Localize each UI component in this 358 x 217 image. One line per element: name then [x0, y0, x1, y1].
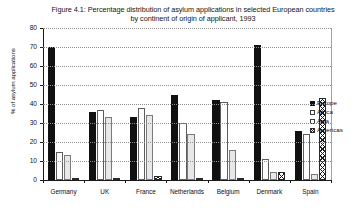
bar-germany-americas [72, 178, 79, 180]
gridline [43, 28, 331, 29]
bar-belgium-americas [237, 178, 244, 180]
legend-label: Africa [317, 109, 333, 115]
y-tick-mark [40, 28, 43, 29]
bar-uk-americas [113, 178, 120, 180]
gridline [43, 161, 331, 162]
y-tick-label: 20 [20, 139, 37, 146]
figure-container: Figure 4.1: Percentage distribution of a… [0, 0, 358, 217]
y-tick-mark [40, 85, 43, 86]
x-tick-label-belgium: Belgium [208, 188, 249, 195]
legend-swatch-americas-icon [310, 128, 315, 133]
legend-item-americas[interactable]: Americas [310, 126, 356, 135]
bar-netherlands-africa [179, 123, 186, 180]
bar-uk-asia [105, 117, 112, 180]
gridline [43, 142, 331, 143]
x-tick-mark [43, 180, 44, 183]
x-tick-label-france: France [125, 188, 166, 195]
x-tick-mark [331, 180, 332, 183]
legend-swatch-africa-icon [310, 110, 315, 115]
y-axis-label: % of asylum applications [10, 33, 16, 129]
bar-netherlands-europe [171, 95, 178, 181]
gridline [43, 104, 331, 105]
x-tick-label-uk: UK [84, 188, 125, 195]
bar-belgium-europe [212, 100, 219, 180]
y-tick-label: 60 [20, 63, 37, 70]
y-tick-mark [40, 123, 43, 124]
bar-netherlands-americas [196, 178, 203, 180]
y-tick-mark [40, 142, 43, 143]
x-axis-line [43, 180, 332, 181]
y-tick-label: 50 [20, 82, 37, 89]
bar-france-europe [130, 117, 137, 180]
chart-title-line-2: by continent of origin of applicant, 199… [34, 14, 352, 23]
y-tick-label: 70 [20, 44, 37, 51]
x-tick-mark [166, 180, 167, 183]
bar-france-africa [138, 108, 145, 180]
x-tick-mark [208, 180, 209, 183]
x-tick-mark [84, 180, 85, 183]
x-tick-mark [125, 180, 126, 183]
bar-uk-europe [89, 112, 96, 180]
y-tick-mark [40, 66, 43, 67]
bar-germany-africa [56, 152, 63, 181]
bar-denmark-africa [262, 159, 269, 180]
x-tick-mark [290, 180, 291, 183]
chart-title-line-1: Figure 4.1: Percentage distribution of a… [34, 5, 352, 14]
legend-item-africa[interactable]: Africa [310, 108, 356, 117]
bar-uk-africa [97, 110, 104, 180]
y-tick-mark [40, 47, 43, 48]
y-tick-label: 0 [20, 177, 37, 184]
bar-france-asia [146, 115, 153, 180]
y-tick-label: 80 [20, 25, 37, 32]
bar-belgium-asia [229, 150, 236, 180]
gridline [43, 123, 331, 124]
bar-france-americas [154, 176, 161, 180]
y-tick-mark [40, 161, 43, 162]
y-tick-label: 30 [20, 120, 37, 127]
x-tick-label-denmark: Denmark [249, 188, 290, 195]
x-tick-label-spain: Spain [290, 188, 331, 195]
bar-germany-asia [64, 155, 71, 180]
bar-spain-asia [311, 174, 318, 180]
x-tick-label-netherlands: Netherlands [166, 188, 207, 195]
bar-denmark-americas [278, 172, 285, 180]
legend-label: Americas [317, 127, 343, 133]
gridline [43, 66, 331, 67]
legend-item-asia[interactable]: Asia [310, 117, 356, 126]
x-tick-mark [249, 180, 250, 183]
y-tick-label: 40 [20, 101, 37, 108]
gridline [43, 85, 331, 86]
chart-title: Figure 4.1: Percentage distribution of a… [34, 5, 352, 24]
gridline [43, 47, 331, 48]
bar-spain-europe [295, 131, 302, 180]
y-tick-mark [40, 104, 43, 105]
x-tick-label-germany: Germany [43, 188, 84, 195]
y-tick-label: 10 [20, 158, 37, 165]
bar-denmark-asia [270, 172, 277, 180]
